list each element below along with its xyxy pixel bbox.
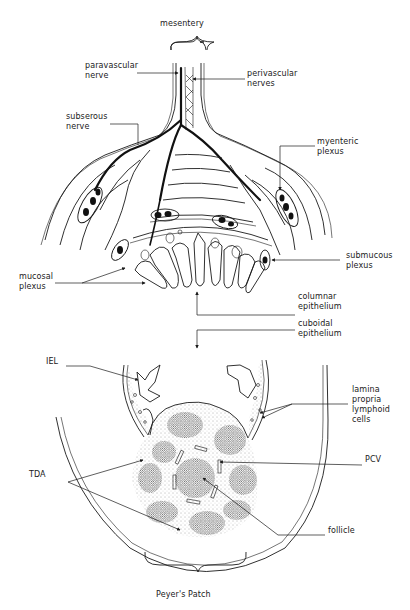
label-perivascular-nerves: perivascular nerves	[247, 69, 297, 89]
label-paravascular-nerve: paravascular nerve	[85, 61, 138, 81]
peyers-patch-title: Peyer's Patch	[156, 590, 211, 600]
peyers-patch	[56, 360, 328, 572]
intestinal-wall-arcs	[41, 150, 332, 255]
label-follicle: follicle	[328, 526, 355, 536]
label-iel: IEL	[46, 357, 58, 367]
mucosa-villi	[130, 227, 272, 293]
label-subserous-nerve: subserous nerve	[66, 112, 108, 132]
label-lamina-propria-lymphoid-cells: lamina propria lymphoid cells	[352, 385, 390, 425]
label-columnar-epithelium: columnar epithelium	[298, 292, 342, 312]
label-cuboidal-epithelium: cuboidal epithelium	[298, 319, 342, 339]
label-pcv: PCV	[365, 455, 381, 465]
intestine-innervation-diagram: mesentery Peyer's Patch paravascular ner…	[0, 0, 410, 610]
label-submucous-plexus: submucous plexus	[346, 251, 393, 271]
label-myenteric-plexus: myenteric plexus	[317, 137, 358, 157]
label-tda: TDA	[29, 470, 46, 480]
diagram-drawing	[0, 0, 410, 610]
label-mucosal-plexus: mucosal plexus	[19, 272, 53, 292]
mesentery-title: mesentery	[160, 19, 204, 29]
mesentery-brace	[171, 36, 214, 50]
